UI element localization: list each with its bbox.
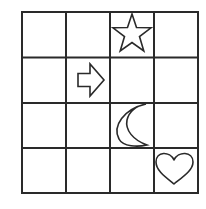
symbol-grid-puzzle	[0, 0, 206, 209]
arrow-right-icon	[78, 64, 104, 96]
crescent-moon-icon	[117, 104, 147, 146]
grid-lines	[22, 12, 198, 193]
heart-icon	[156, 153, 193, 184]
star-icon	[113, 14, 151, 51]
